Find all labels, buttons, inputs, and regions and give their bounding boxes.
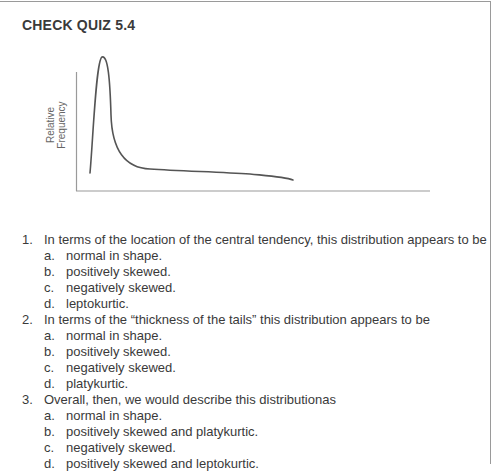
- y-axis-label-line-1: Relative: [45, 101, 56, 148]
- option-letter: a.: [44, 408, 66, 424]
- option-letter: d.: [44, 296, 66, 312]
- distribution-chart: Relative Frequency: [0, 0, 497, 200]
- option-letter: a.: [44, 248, 66, 264]
- option-letter: b.: [44, 264, 66, 280]
- option-letter: d.: [44, 376, 66, 392]
- option-3c: c.negatively skewed.: [22, 440, 492, 456]
- option-text: positively skewed and platykurtic.: [66, 424, 258, 440]
- option-1d: d.leptokurtic.: [22, 296, 492, 312]
- option-text: platykurtic.: [66, 376, 128, 392]
- option-text: normal in shape.: [66, 248, 162, 264]
- option-text: positively skewed.: [66, 264, 171, 280]
- option-text: normal in shape.: [66, 328, 162, 344]
- option-text: normal in shape.: [66, 408, 162, 424]
- option-text: positively skewed and leptokurtic.: [66, 456, 259, 472]
- option-text: positively skewed.: [66, 344, 171, 360]
- option-letter: c.: [44, 360, 66, 376]
- option-letter: a.: [44, 328, 66, 344]
- option-3d: d.positively skewed and leptokurtic.: [22, 456, 492, 472]
- option-text: leptokurtic.: [66, 296, 129, 312]
- question-number: 1.: [22, 232, 44, 248]
- option-text: negatively skewed.: [66, 440, 176, 456]
- question-text: In terms of the “thickness of the tails”…: [44, 312, 430, 328]
- option-3a: a.normal in shape.: [22, 408, 492, 424]
- option-letter: b.: [44, 424, 66, 440]
- question-text: In terms of the location of the central …: [44, 232, 487, 248]
- question-2: 2. In terms of the “thickness of the tai…: [22, 312, 492, 392]
- question-number: 2.: [22, 312, 44, 328]
- question-3: 3. Overall, then, we would describe this…: [22, 392, 492, 472]
- question-number: 3.: [22, 392, 44, 408]
- y-axis-label: Relative Frequency: [36, 90, 76, 160]
- option-1c: c.negatively skewed.: [22, 280, 492, 296]
- option-2d: d.platykurtic.: [22, 376, 492, 392]
- option-2a: a.normal in shape.: [22, 328, 492, 344]
- option-letter: d.: [44, 456, 66, 472]
- question-1: 1. In terms of the location of the centr…: [22, 232, 492, 312]
- option-text: negatively skewed.: [66, 360, 176, 376]
- question-list: 1. In terms of the location of the centr…: [22, 232, 492, 472]
- option-3b: b.positively skewed and platykurtic.: [22, 424, 492, 440]
- option-1a: a.normal in shape.: [22, 248, 492, 264]
- y-axis-label-line-2: Frequency: [56, 101, 67, 148]
- question-text: Overall, then, we would describe this di…: [44, 392, 336, 408]
- option-letter: b.: [44, 344, 66, 360]
- distribution-curve: [90, 57, 293, 180]
- option-letter: c.: [44, 440, 66, 456]
- option-text: negatively skewed.: [66, 280, 176, 296]
- option-1b: b.positively skewed.: [22, 264, 492, 280]
- option-letter: c.: [44, 280, 66, 296]
- option-2b: b.positively skewed.: [22, 344, 492, 360]
- option-2c: c.negatively skewed.: [22, 360, 492, 376]
